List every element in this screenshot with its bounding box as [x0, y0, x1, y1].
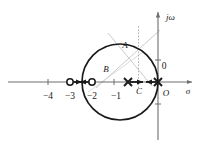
- axes: [8, 12, 192, 140]
- tick-label-minus-4: −4: [43, 91, 53, 101]
- label-point-b: B: [103, 64, 109, 74]
- label-point-a: A: [121, 40, 128, 50]
- label-origin-o: O: [163, 88, 170, 98]
- label-imag-zero: 0: [162, 61, 167, 71]
- tick-label-minus-1: −1: [111, 91, 121, 101]
- label-imaginary-axis: jω: [165, 12, 175, 22]
- zero-marker-minus-3: [67, 79, 73, 85]
- label-real-axis: σ: [186, 86, 191, 96]
- tick-label-minus-2: −2: [87, 91, 97, 101]
- zero-marker-minus-2: [89, 79, 95, 85]
- tick-label-minus-3: −3: [65, 91, 75, 101]
- construction-line-b: [88, 52, 143, 92]
- root-locus-canvas: −4 −3 −2 −1 A B C O 0 jω σ: [0, 0, 203, 149]
- root-locus-figure: −4 −3 −2 −1 A B C O 0 jω σ: [0, 0, 203, 149]
- label-point-c: C: [136, 86, 143, 96]
- asymptote-line-upper-left: [108, 33, 152, 86]
